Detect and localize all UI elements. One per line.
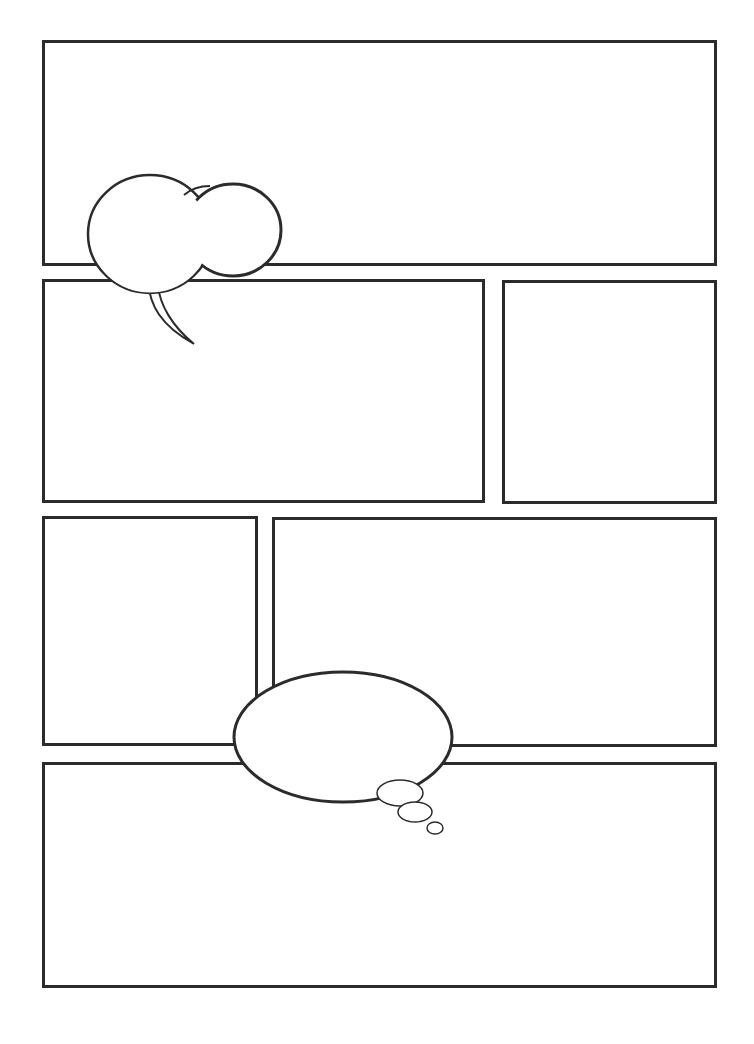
comic-page	[0, 0, 754, 1044]
speech-bubble[interactable]	[88, 175, 281, 344]
thought-bubble-dot-small	[427, 822, 443, 834]
thought-bubble-dot-medium	[398, 802, 432, 822]
thought-bubble[interactable]	[234, 672, 452, 834]
bubble-layer	[0, 0, 754, 1044]
thought-bubble-body	[234, 672, 452, 802]
